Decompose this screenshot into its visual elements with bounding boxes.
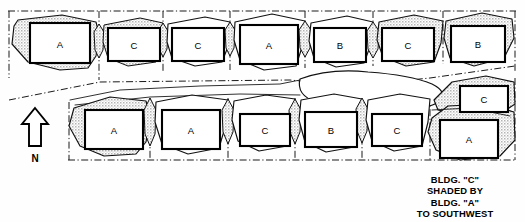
caption-line-4: TO SOUTHWEST	[391, 208, 519, 220]
building-label-l3: C	[261, 125, 268, 136]
caption-line-2: SHADED BY	[391, 185, 519, 197]
building-label-l1: A	[111, 125, 118, 136]
building-label-u7: B	[475, 39, 482, 50]
building-label-l7: A	[466, 134, 473, 145]
building-label-u4: A	[266, 40, 273, 51]
north-label: N	[31, 153, 38, 164]
building-label-u5: B	[337, 40, 344, 51]
building-label-l5: C	[393, 125, 400, 136]
building-label-l4: B	[328, 125, 335, 136]
building-label-u1: A	[57, 39, 64, 50]
building-label-u2: C	[130, 40, 137, 51]
caption-line-1: BLDG. "C"	[391, 174, 519, 186]
building-label-l6: C	[480, 94, 487, 105]
building-label-l2: A	[188, 125, 195, 136]
caption-line-3: BLDG. "A"	[391, 197, 519, 209]
building-label-u3: C	[194, 40, 201, 51]
north-arrow-group: N	[22, 108, 48, 164]
building-label-u6: C	[404, 40, 411, 51]
north-arrow-icon	[22, 108, 48, 146]
shading-note-caption: BLDG. "C" SHADED BY BLDG. "A" TO SOUTHWE…	[391, 174, 519, 220]
site-plan-diagram: A C C A B C B A A C B C	[0, 0, 525, 222]
